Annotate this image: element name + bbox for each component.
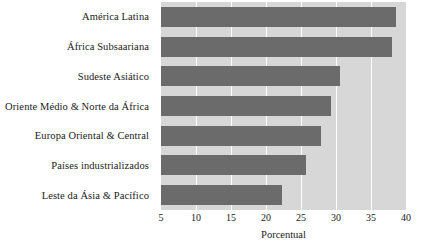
bar [161, 7, 396, 27]
plot-area [161, 2, 406, 210]
bar-chart-figure: América Latina África Subsaariana Sudest… [0, 0, 421, 248]
x-tick-label: 25 [296, 212, 306, 223]
bar [161, 66, 340, 86]
bar [161, 37, 392, 57]
bar-track [161, 121, 406, 151]
category-label: Países industrializados [0, 151, 155, 181]
bar [161, 96, 331, 116]
category-label: Oriente Médio & Norte da África [0, 91, 155, 121]
bar-track [161, 32, 406, 62]
category-label: África Subsaariana [0, 32, 155, 62]
bar-track [161, 2, 406, 32]
bar [161, 155, 306, 175]
axis-title: Porcentual [161, 229, 406, 240]
bars-layer [161, 2, 406, 210]
bar-track [161, 151, 406, 181]
x-tick-label: 10 [191, 212, 201, 223]
value-axis: 510152025303540 [161, 212, 406, 227]
bar [161, 126, 321, 146]
category-label: Leste da Ásia & Pacífico [0, 180, 155, 210]
bar-track [161, 61, 406, 91]
category-label: América Latina [0, 2, 155, 32]
category-axis: América Latina África Subsaariana Sudest… [0, 2, 155, 210]
x-tick-label: 35 [366, 212, 376, 223]
bar-track [161, 91, 406, 121]
category-label: Europa Oriental & Central [0, 121, 155, 151]
x-tick-label: 20 [261, 212, 271, 223]
bar [161, 185, 282, 205]
x-tick-label: 15 [226, 212, 236, 223]
x-tick-label: 5 [159, 212, 164, 223]
bar-track [161, 180, 406, 210]
x-tick-label: 40 [401, 212, 411, 223]
x-tick-label: 30 [331, 212, 341, 223]
category-label: Sudeste Asiático [0, 61, 155, 91]
